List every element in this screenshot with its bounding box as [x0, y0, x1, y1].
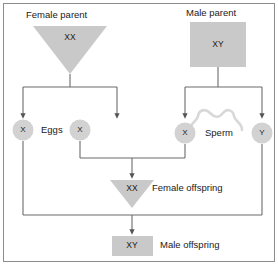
male-parent-label: Male parent: [186, 8, 236, 18]
female-parent-genotype: XX: [58, 33, 82, 42]
female-offspring-genotype: XX: [120, 184, 144, 193]
male-offspring-label: Male offspring: [160, 240, 220, 250]
sex-determination-diagram: Female parent XX Male parent XY X Eggs X…: [0, 0, 278, 265]
egg-allele-left: X: [11, 126, 35, 134]
eggs-label: Eggs: [41, 125, 63, 135]
female-parent-label: Female parent: [26, 10, 87, 20]
male-offspring-genotype: XY: [120, 241, 144, 250]
female-offspring-label: Female offspring: [152, 183, 223, 193]
sperm-allele-y: Y: [250, 129, 274, 137]
egg-allele-right: X: [68, 126, 92, 134]
sperm-allele-x: X: [173, 129, 197, 137]
male-parent-genotype: XY: [206, 40, 230, 49]
sperm-label: Sperm: [205, 128, 233, 138]
